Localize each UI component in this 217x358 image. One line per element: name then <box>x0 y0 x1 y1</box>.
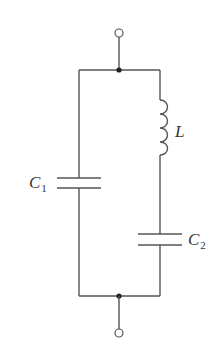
capacitor1-label: C1 <box>29 174 47 191</box>
capacitor1-subscript: 1 <box>41 182 47 194</box>
inductor-symbol: L <box>175 122 184 141</box>
capacitor2-label: C2 <box>188 231 206 248</box>
inductor-label: L <box>175 123 184 140</box>
capacitor1-symbol: C <box>29 173 40 192</box>
capacitor2-subscript: 2 <box>200 239 206 251</box>
inductor-coil-icon <box>160 100 168 155</box>
top-terminal-icon <box>115 29 123 37</box>
top-junction-node <box>116 67 121 72</box>
bottom-terminal-icon <box>115 329 123 337</box>
capacitor2-symbol: C <box>188 230 199 249</box>
